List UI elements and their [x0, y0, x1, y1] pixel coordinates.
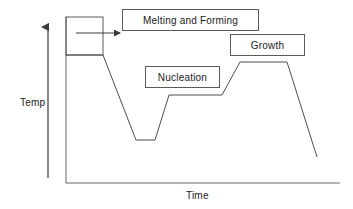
melting-region-highlight-box: [66, 17, 103, 55]
callout-growth: Growth: [230, 34, 305, 56]
callout-melting-and-forming: Melting and Forming: [122, 9, 259, 31]
x-axis-label: Time: [186, 190, 209, 201]
y-axis-label: Temp: [20, 97, 45, 108]
diagram-canvas: [0, 0, 353, 209]
callout-nucleation: Nucleation: [145, 66, 220, 88]
thermal-profile-diagram: Temp Time Melting and Forming Growth Nuc…: [0, 0, 353, 209]
